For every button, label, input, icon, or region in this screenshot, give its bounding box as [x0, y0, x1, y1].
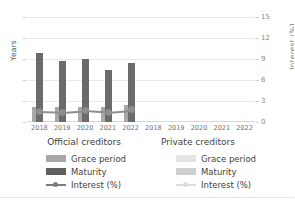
- x-tick-label: 2021: [210, 124, 234, 132]
- panel-official-creditors: 20182019202020212022: [27, 17, 141, 122]
- y-tick-mark-left: [23, 59, 26, 60]
- y-tick-label-right: 6: [261, 76, 285, 84]
- interest-data-point: [59, 109, 66, 116]
- y-tick-label-right: 9: [261, 55, 285, 63]
- x-tick-label: 2022: [119, 124, 143, 132]
- x-tick-label: 2020: [187, 124, 211, 132]
- bottom-divider: [0, 197, 294, 198]
- legend-swatch-interest-line-faded-icon: [176, 181, 196, 188]
- chart-figure: Years Interest (%) 01020304050 03691215 …: [0, 0, 294, 200]
- plot-area: 01020304050 03691215 2018201920202021202…: [27, 17, 255, 122]
- interest-data-point: [105, 109, 112, 116]
- legend-swatch-maturity-icon: [46, 168, 66, 175]
- y-tick-mark-right: [256, 80, 259, 81]
- panel-private-creditors: 20182019202020212022: [141, 17, 255, 122]
- x-tick-label: 2018: [141, 124, 165, 132]
- bar-maturity: [128, 63, 135, 122]
- legend-item-maturity-private[interactable]: Maturity: [176, 165, 294, 178]
- y-tick-mark-right: [256, 101, 259, 102]
- legend-label-interest: Interest (%): [71, 180, 121, 190]
- legend-swatch-grace-period-faded-icon: [176, 155, 196, 162]
- interest-data-point: [128, 106, 135, 113]
- y-axis-left-title: Years: [9, 21, 18, 81]
- y-tick-mark-left: [23, 38, 26, 39]
- panel-title-official: Official creditors: [27, 137, 141, 147]
- y-tick-label-right: 3: [261, 97, 285, 105]
- y-tick-mark-left: [23, 101, 26, 102]
- y-tick-mark-right: [256, 122, 259, 123]
- x-tick-label: 2019: [164, 124, 188, 132]
- legend-swatch-maturity-faded-icon: [176, 168, 196, 175]
- x-tick-label: 2018: [27, 124, 51, 132]
- legend-official: Grace period Maturity Interest (%): [46, 152, 174, 191]
- y-tick-mark-right: [256, 17, 259, 18]
- legend-item-interest[interactable]: Interest (%): [46, 178, 174, 191]
- legend-item-maturity[interactable]: Maturity: [46, 165, 174, 178]
- y-tick-mark-left: [23, 17, 26, 18]
- y-tick-label-right: 0: [261, 118, 285, 126]
- y-tick-mark-left: [23, 122, 26, 123]
- x-tick-label: 2019: [50, 124, 74, 132]
- y-tick-mark-right: [256, 38, 259, 39]
- panel-title-private: Private creditors: [141, 137, 255, 147]
- legend-label-grace-period-private: Grace period: [201, 154, 256, 164]
- y-tick-mark-right: [256, 59, 259, 60]
- legend-swatch-interest-line-icon: [46, 181, 66, 188]
- legend-label-maturity-private: Maturity: [201, 167, 236, 177]
- legend-swatch-grace-period-icon: [46, 155, 66, 162]
- legend-label-grace-period: Grace period: [71, 154, 126, 164]
- y-tick-mark-left: [23, 80, 26, 81]
- legend-label-maturity: Maturity: [71, 167, 106, 177]
- legend-item-grace-period[interactable]: Grace period: [46, 152, 174, 165]
- x-tick-label: 2021: [96, 124, 120, 132]
- y-tick-label-right: 15: [261, 13, 285, 21]
- x-tick-label: 2022: [233, 124, 257, 132]
- legend-item-grace-period-private[interactable]: Grace period: [176, 152, 294, 165]
- y-tick-label-right: 12: [261, 34, 285, 42]
- legend-label-interest-private: Interest (%): [201, 180, 251, 190]
- x-tick-label: 2020: [73, 124, 97, 132]
- legend-private: Grace period Maturity Interest (%): [176, 152, 294, 191]
- legend-item-interest-private[interactable]: Interest (%): [176, 178, 294, 191]
- y-axis-right-title: Interest (%): [288, 11, 295, 83]
